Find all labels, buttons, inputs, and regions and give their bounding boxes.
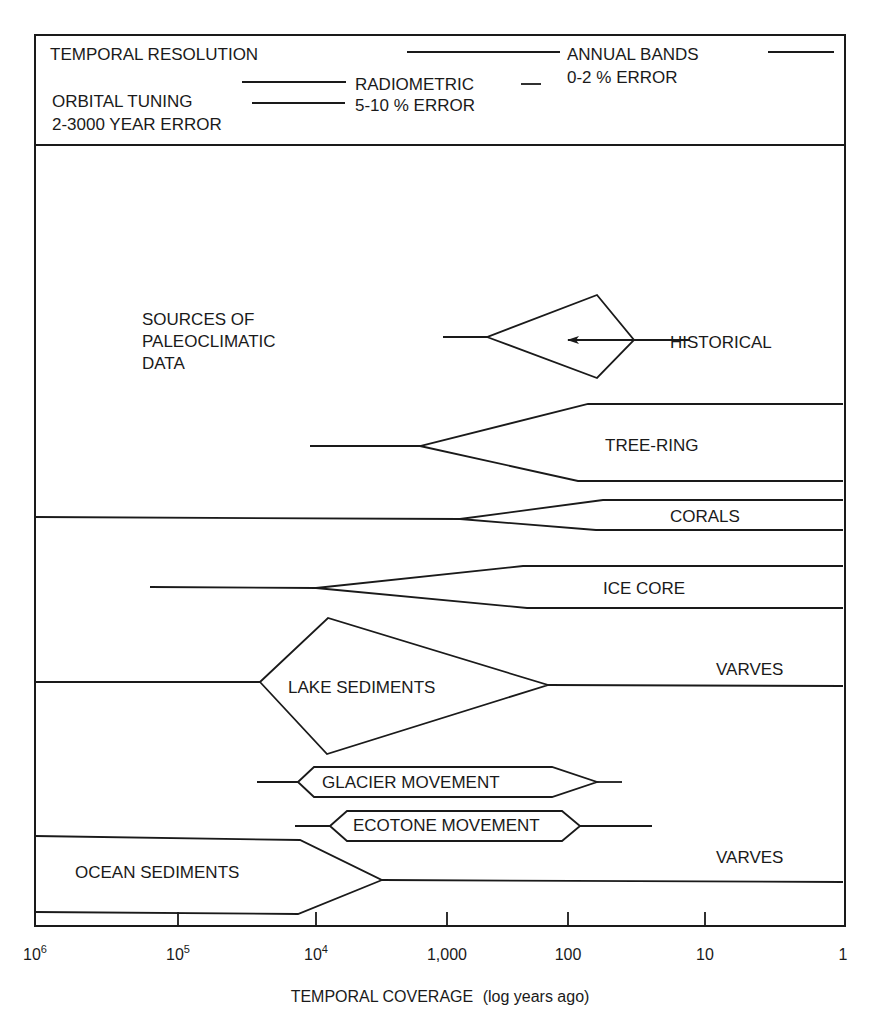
source-label: ECOTONE MOVEMENT: [353, 816, 540, 835]
coverage-shape: [443, 295, 634, 378]
coverage-shape: [460, 519, 843, 530]
annual-bands-error: 0-2 % ERROR: [567, 68, 678, 87]
source-historical: HISTORICAL: [443, 295, 772, 378]
source-lake-sediments: LAKE SEDIMENTSVARVES: [35, 618, 843, 754]
panel-title-line-2: PALEOCLIMATIC: [142, 332, 276, 351]
x-tick-label: 10: [696, 946, 714, 963]
radiometric-error: 5-10 % ERROR: [355, 96, 475, 115]
sources-layer: HISTORICALTREE-RINGCORALSICE CORELAKE SE…: [35, 295, 843, 914]
source-ecotone-movement: ECOTONE MOVEMENT: [295, 811, 652, 841]
source-label: GLACIER MOVEMENT: [322, 773, 500, 792]
varves-label: VARVES: [716, 660, 783, 679]
source-glacier-movement: GLACIER MOVEMENT: [257, 767, 622, 797]
source-tree-ring: TREE-RING: [310, 404, 843, 481]
orbital-tuning-error: 2-3000 YEAR ERROR: [52, 115, 222, 134]
source-corals: CORALS: [35, 500, 843, 530]
varves-label: VARVES: [716, 848, 783, 867]
x-tick-label: 105: [166, 943, 190, 963]
x-tick-label: 100: [555, 946, 582, 963]
x-tick-label: 1,000: [427, 946, 467, 963]
source-ocean-sediments: OCEAN SEDIMENTSVARVES: [35, 836, 843, 914]
radiometric-label: RADIOMETRIC: [355, 75, 474, 94]
panel-title: SOURCES OF PALEOCLIMATIC DATA: [142, 310, 276, 373]
temporal-resolution-label: TEMPORAL RESOLUTION: [50, 45, 258, 64]
x-axis-title-main: TEMPORAL COVERAGE: [291, 988, 474, 1005]
x-tick-label: 104: [304, 943, 328, 963]
source-label: LAKE SEDIMENTS: [288, 678, 435, 697]
coverage-shape: [310, 404, 843, 446]
x-axis: 1061051041,000100101: [23, 912, 848, 963]
coverage-shape: [150, 566, 843, 588]
x-axis-title-sub: (log years ago): [483, 988, 590, 1005]
source-label: OCEAN SEDIMENTS: [75, 863, 239, 882]
annual-bands-label: ANNUAL BANDS: [567, 45, 699, 64]
source-label: ICE CORE: [603, 579, 685, 598]
source-label: TREE-RING: [605, 436, 699, 455]
x-tick-label: 106: [23, 943, 47, 963]
source-label: CORALS: [670, 507, 740, 526]
coverage-shape: [316, 588, 843, 608]
coverage-shape: [548, 685, 843, 686]
panel-title-line-3: DATA: [142, 354, 185, 373]
source-ice-core: ICE CORE: [150, 566, 843, 608]
coverage-shape: [35, 880, 382, 914]
x-axis-title: TEMPORAL COVERAGE (log years ago): [291, 988, 590, 1005]
x-tick-label: 1: [839, 946, 848, 963]
orbital-tuning-label: ORBITAL TUNING: [52, 92, 192, 111]
source-label: HISTORICAL: [670, 333, 772, 352]
temporal-resolution-header: TEMPORAL RESOLUTION ANNUAL BANDS 0-2 % E…: [50, 45, 834, 134]
paleoclimate-diagram: TEMPORAL RESOLUTION ANNUAL BANDS 0-2 % E…: [0, 0, 880, 1034]
panel-title-line-1: SOURCES OF: [142, 310, 254, 329]
